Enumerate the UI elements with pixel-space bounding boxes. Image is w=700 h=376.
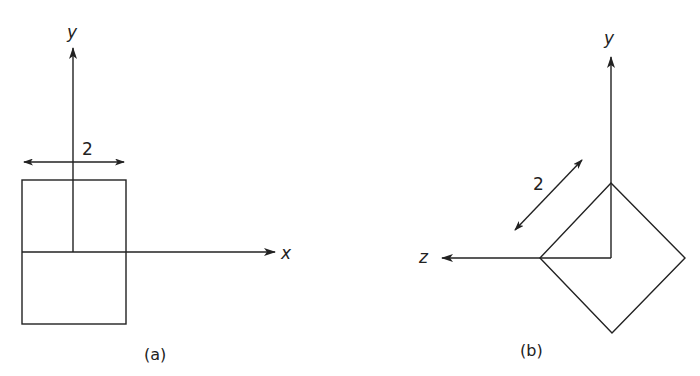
dimension-label-a: 2 — [82, 139, 93, 159]
dimension-label-b: 2 — [533, 174, 544, 194]
caption-b: (b) — [520, 341, 543, 360]
y-axis-label-b: y — [603, 28, 615, 48]
figure-a: y x 2 (a) — [22, 22, 292, 364]
diagonal-dimension-arrow-b — [515, 160, 582, 230]
figure-b: y z 2 (b) — [418, 28, 685, 360]
y-axis-label-a: y — [66, 22, 78, 42]
x-axis-label-a: x — [280, 243, 292, 263]
diagram-canvas: y x 2 (a) y z 2 (b) — [0, 0, 700, 376]
caption-a: (a) — [144, 345, 166, 364]
z-axis-label-b: z — [418, 247, 429, 267]
